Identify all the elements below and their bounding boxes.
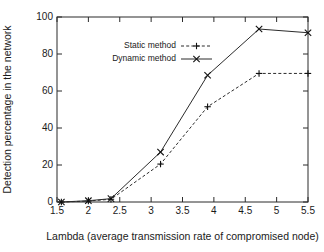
y-tick-label: 20 — [42, 159, 54, 170]
legend-label-2: Dynamic method — [112, 53, 176, 63]
x-tick-label: 2.5 — [113, 205, 127, 216]
series-line — [61, 73, 308, 202]
x-tick-label: 4 — [211, 205, 217, 216]
x-tick-label: 2 — [86, 205, 92, 216]
y-tick-label: 40 — [42, 122, 54, 133]
series-layer — [58, 26, 311, 205]
y-axis-label: Detection percentage in the network — [1, 25, 13, 194]
plus-marker — [204, 104, 210, 110]
plus-marker — [157, 161, 163, 167]
x-tick-label: 4.5 — [238, 205, 252, 216]
plus-marker — [256, 70, 262, 76]
cross-marker — [157, 149, 163, 155]
y-tick-label: 80 — [42, 48, 54, 59]
x-tick-label: 1.5 — [50, 205, 64, 216]
plus-marker — [193, 43, 199, 49]
x-tick-label: 3.5 — [176, 205, 190, 216]
plus-marker — [305, 70, 311, 76]
plot-frame — [57, 17, 308, 202]
chart-figure: 020406080100 1.522.533.544.555.5 Static … — [0, 0, 324, 252]
x-tick-label: 5 — [274, 205, 280, 216]
cross-marker — [204, 72, 210, 78]
x-axis-label: Lambda (average transmission rate of com… — [46, 230, 319, 242]
x-tick-label: 5.5 — [301, 205, 315, 216]
series-1 — [58, 70, 311, 205]
series-2 — [58, 26, 311, 205]
legend-label-1: Static method — [124, 40, 176, 50]
series-line — [61, 29, 308, 202]
x-tick-label: 3 — [148, 205, 154, 216]
line-chart: 020406080100 1.522.533.544.555.5 Static … — [0, 0, 324, 252]
y-tick-label: 60 — [42, 85, 54, 96]
chart-legend: Static methodDynamic method — [112, 40, 212, 63]
y-tick-label: 100 — [36, 11, 53, 22]
